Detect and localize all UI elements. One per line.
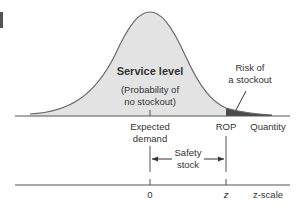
safety-stock-label-1: Safety xyxy=(175,147,202,158)
z-label: z xyxy=(223,189,229,200)
expected-demand-label-2: demand xyxy=(133,133,167,144)
quantity-label: Quantity xyxy=(250,121,286,132)
service-level-subtitle-2: no stockout) xyxy=(124,96,176,107)
service-level-subtitle-1: (Probability of xyxy=(121,84,179,95)
arrowhead-right-icon xyxy=(218,157,224,162)
margin-mark xyxy=(0,12,3,28)
arrowhead-left-icon xyxy=(152,157,158,162)
rop-label: ROP xyxy=(216,121,237,132)
expected-demand-label-1: Expected xyxy=(130,121,170,132)
risk-pointer-line xyxy=(236,91,246,110)
service-level-title: Service level xyxy=(117,65,184,77)
risk-label-2: a stockout xyxy=(228,74,272,85)
safety-stock-label-2: stock xyxy=(177,159,199,170)
risk-label-1: Risk of xyxy=(235,62,264,73)
safety-stock-diagram: Service level (Probability of no stockou… xyxy=(0,0,303,217)
z-scale-label: z-scale xyxy=(253,189,283,200)
z-zero-label: 0 xyxy=(147,189,152,200)
